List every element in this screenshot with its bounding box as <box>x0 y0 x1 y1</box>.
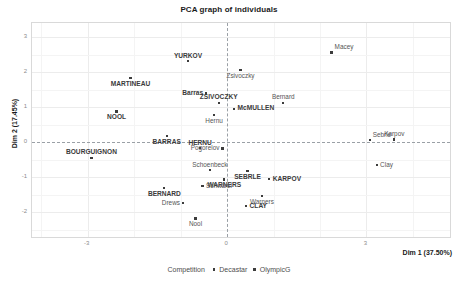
x-axis-tick: -3 <box>72 240 102 246</box>
point-label: Schwarzl <box>206 183 232 189</box>
point-label: CLAY <box>250 203 267 210</box>
point-label: Hernu <box>205 118 222 124</box>
y-axis-label: Dim 2 (17.45%) <box>11 84 18 164</box>
gridline-horizontal <box>32 90 450 91</box>
data-point[interactable] <box>129 77 131 79</box>
gridline-horizontal <box>32 125 450 126</box>
zero-line-horizontal <box>32 142 450 143</box>
gridline-horizontal <box>32 212 450 213</box>
point-label: Schoenbeck <box>192 162 227 168</box>
point-label: ZSIVOCZKY <box>200 94 238 101</box>
data-point[interactable] <box>182 202 184 204</box>
data-point[interactable] <box>369 139 371 141</box>
data-point[interactable] <box>282 102 284 104</box>
legend-marker-icon <box>213 268 215 270</box>
point-label: BERNARD <box>148 191 181 198</box>
legend-item-decastar[interactable]: Decastar <box>213 266 247 273</box>
point-label: McMULLEN <box>238 105 275 112</box>
y-axis-tick: 2 <box>3 68 27 74</box>
data-point[interactable] <box>393 138 395 140</box>
y-axis-tick: 1 <box>3 103 27 109</box>
data-point[interactable] <box>268 178 270 180</box>
y-axis-tick: 0 <box>3 138 27 144</box>
data-point[interactable] <box>209 169 211 171</box>
point-label: MARTINEAU <box>111 81 151 88</box>
data-point[interactable] <box>223 178 225 180</box>
data-point[interactable] <box>239 69 241 71</box>
data-point[interactable] <box>376 164 378 166</box>
point-label: Karpov <box>384 131 404 137</box>
data-point[interactable] <box>201 185 203 187</box>
legend-item-olympicg[interactable]: OlympicG <box>253 266 290 273</box>
gridline-horizontal <box>32 195 450 196</box>
plot-area: YURKOVMaceyMARTINEAUZsivoczkyBarrasZSIVO… <box>31 22 451 238</box>
point-label: Zsivoczky <box>227 73 255 79</box>
y-axis-tick: 3 <box>3 33 27 39</box>
gridline-horizontal <box>32 230 450 231</box>
data-point[interactable] <box>246 170 248 172</box>
point-label: SEBRLE <box>234 174 261 181</box>
gridline-horizontal <box>32 55 450 56</box>
chart-title: PCA graph of individuals <box>0 5 458 14</box>
point-label: Macey <box>335 44 354 50</box>
y-axis-tick: -1 <box>3 173 27 179</box>
data-point[interactable] <box>213 114 215 116</box>
point-label: Drews <box>162 200 180 206</box>
point-label: BOURGUIGNON <box>66 149 117 156</box>
data-point[interactable] <box>245 205 247 207</box>
x-axis-tick: 0 <box>211 240 241 246</box>
x-axis-label: Dim 1 (37.50%) <box>403 249 452 256</box>
point-label: NOOL <box>107 114 126 121</box>
data-point[interactable] <box>221 147 223 149</box>
pca-scatter-chart: PCA graph of individuals Dim 2 (17.45%) … <box>0 0 458 286</box>
legend-label-decastar: Decastar <box>219 266 247 273</box>
data-point[interactable] <box>90 157 92 159</box>
point-label: Pogorelov <box>191 145 220 151</box>
gridline-horizontal <box>32 37 450 38</box>
data-point[interactable] <box>218 102 220 104</box>
chart-legend: Competition Decastar OlympicG <box>0 266 458 273</box>
point-label: Clay <box>380 162 393 168</box>
legend-marker-icon <box>253 268 255 270</box>
data-point[interactable] <box>115 110 117 112</box>
data-point[interactable] <box>163 187 165 189</box>
legend-label-olympicg: OlympicG <box>260 266 291 273</box>
point-label: YURKOV <box>174 53 202 60</box>
data-point[interactable] <box>187 60 189 62</box>
data-point[interactable] <box>166 135 168 137</box>
data-point[interactable] <box>194 217 196 219</box>
data-point[interactable] <box>261 195 263 197</box>
data-point[interactable] <box>233 108 235 110</box>
zero-line-vertical <box>227 23 228 237</box>
point-label: Bernard <box>272 94 295 100</box>
data-point[interactable] <box>330 51 332 53</box>
legend-title: Competition <box>168 266 205 273</box>
point-label: Nool <box>189 221 202 227</box>
y-axis-tick: -2 <box>3 208 27 214</box>
x-axis-tick: 3 <box>350 240 380 246</box>
point-label: KARPOV <box>273 176 301 183</box>
point-label: BARRAS <box>153 139 181 146</box>
